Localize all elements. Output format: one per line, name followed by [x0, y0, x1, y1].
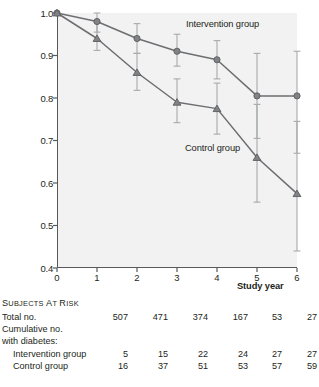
table-cell: 167: [222, 312, 248, 322]
y-tick-label-5: 0.6: [27, 178, 53, 189]
series-label-intervention: Intervention group: [186, 19, 259, 29]
y-tick-label-1: 1.0: [27, 8, 53, 19]
table-row: Total no.5074713741675327: [2, 312, 317, 324]
table-row: Control group163751535759: [2, 361, 317, 373]
table-cell: 37: [142, 361, 168, 371]
risk-table-heading: SUBJECTS AT RISK: [2, 298, 317, 308]
y-tick-label-6: 0.5: [27, 220, 53, 231]
x-axis-title: Study year: [237, 281, 284, 291]
table-cell: 507: [102, 312, 128, 322]
table-cell: 5: [102, 349, 128, 359]
table-row-label: Control group: [13, 361, 68, 371]
table-cell: 27: [291, 312, 317, 322]
table-cell: 59: [291, 361, 317, 371]
x-tick-label-1: 1: [87, 272, 107, 283]
table-cell: 15: [142, 349, 168, 359]
x-tick-label-0: 0: [47, 272, 67, 283]
table-cell: 24: [222, 349, 248, 359]
table-row: with diabetes:: [2, 336, 317, 348]
table-cell: 53: [256, 312, 282, 322]
table-row-label: Cumulative no.: [2, 324, 63, 334]
x-tick-label-6: 6: [287, 272, 307, 283]
table-row-label: with diabetes:: [2, 336, 58, 346]
table-cell: 57: [256, 361, 282, 371]
table-cell: 27: [291, 349, 317, 359]
subjects-at-risk-table: SUBJECTS AT RISK Total no.50747137416753…: [2, 298, 317, 373]
table-row-label: Total no.: [2, 312, 36, 322]
table-cell: 471: [142, 312, 168, 322]
x-tick-label-2: 2: [127, 272, 147, 283]
table-cell: 51: [182, 361, 208, 371]
risk-table-body: Total no.5074713741675327Cumulative no.w…: [2, 312, 317, 373]
table-row-label: Intervention group: [13, 349, 86, 359]
table-cell: 53: [222, 361, 248, 371]
table-cell: 374: [182, 312, 208, 322]
series-label-control: Control group: [185, 143, 240, 153]
table-row: Cumulative no.: [2, 324, 317, 336]
y-tick-label-2: 0.9: [27, 50, 53, 61]
y-tick-label-4: 0.7: [27, 135, 53, 146]
table-cell: 27: [256, 349, 282, 359]
x-tick-label-4: 4: [207, 272, 227, 283]
y-tick-label-3: 0.8: [27, 93, 53, 104]
table-row: Intervention group51522242727: [2, 349, 317, 361]
x-tick-label-3: 3: [167, 272, 187, 283]
diabetes-survival-figure: Cumulative probability of remaining free…: [0, 0, 319, 387]
table-cell: 22: [182, 349, 208, 359]
plot-area: [57, 13, 297, 268]
table-cell: 16: [102, 361, 128, 371]
